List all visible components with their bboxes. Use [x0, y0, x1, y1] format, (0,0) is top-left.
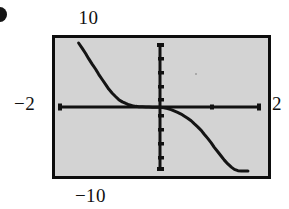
y-tick — [158, 85, 164, 89]
y-tick — [158, 142, 164, 146]
y-tick — [158, 71, 164, 75]
x-tick — [257, 104, 261, 111]
x-min-label: −2 — [14, 94, 35, 113]
y-tick — [157, 43, 164, 47]
calculator-screen — [52, 35, 271, 179]
y-max-label: 10 — [0, 8, 289, 27]
plot-canvas — [55, 38, 268, 176]
y-tick — [158, 98, 164, 102]
x-max-label: 2 — [272, 94, 282, 113]
graph-figure: 10 −10 −2 2 — [0, 0, 289, 209]
y-tick — [158, 128, 164, 132]
x-tick — [58, 104, 62, 111]
screen-speck — [195, 73, 197, 75]
x-tick — [210, 105, 214, 110]
y-tick — [157, 167, 164, 171]
y-tick — [158, 114, 164, 118]
y-min-label: −10 — [0, 186, 289, 205]
y-tick — [158, 57, 164, 61]
y-tick — [158, 156, 164, 160]
